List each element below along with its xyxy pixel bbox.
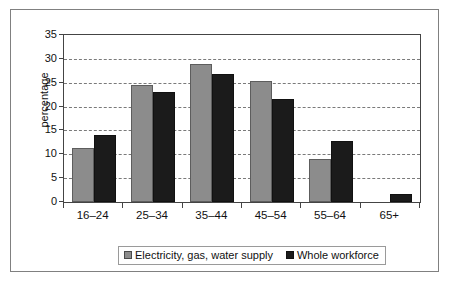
x-axis-tick-label: 55–64	[314, 209, 346, 221]
legend-label: Whole workforce	[297, 249, 379, 261]
bar	[331, 141, 353, 202]
y-axis-tick-label: 5	[11, 171, 57, 183]
bar-series-container	[64, 35, 420, 202]
plot-area	[63, 34, 421, 203]
y-axis-tick-label: 15	[11, 123, 57, 135]
bar	[153, 92, 175, 202]
bar	[131, 85, 153, 202]
y-axis-tick-mark	[59, 106, 63, 107]
y-axis-tick-mark	[59, 82, 63, 83]
y-axis-tick-label: 35	[11, 28, 57, 40]
legend-item: Electricity, gas, water supply	[124, 249, 273, 261]
bar	[94, 135, 116, 202]
y-axis-tick-label: 25	[11, 76, 57, 88]
x-axis-tick-label: 16–24	[77, 209, 109, 221]
bar	[72, 148, 94, 202]
y-axis-tick-mark	[59, 34, 63, 35]
x-axis-tick-mark	[182, 203, 183, 208]
bar-group	[183, 35, 242, 202]
chart-figure: percentage 05101520253035 16–2425–3435–4…	[10, 9, 439, 272]
bar	[390, 194, 412, 202]
grey-square-swatch	[124, 251, 132, 259]
chart-legend: Electricity, gas, water supplyWhole work…	[118, 246, 386, 265]
bar	[190, 64, 212, 202]
y-axis-tick-mark	[59, 58, 63, 59]
legend-label: Electricity, gas, water supply	[135, 249, 273, 261]
bar-group	[301, 35, 360, 202]
x-axis-tick-mark	[122, 203, 123, 208]
x-axis-tick-mark	[419, 203, 420, 208]
x-axis-tick-label: 65+	[380, 209, 400, 221]
bar	[309, 159, 331, 202]
bar	[212, 74, 234, 202]
y-axis-tick-mark	[59, 129, 63, 130]
x-axis-tick-mark	[300, 203, 301, 208]
x-axis-tick-label: 35–44	[195, 209, 227, 221]
black-square-swatch	[286, 251, 294, 259]
y-axis-tick-label: 0	[11, 195, 57, 207]
bar-group	[64, 35, 123, 202]
bar-group	[123, 35, 182, 202]
y-axis-tick-label: 30	[11, 52, 57, 64]
x-axis-tick-label: 25–34	[136, 209, 168, 221]
bar-group	[361, 35, 420, 202]
x-axis: 16–2425–3435–4445–5455–6465+	[63, 203, 421, 229]
x-axis-tick-mark	[63, 203, 64, 208]
bar-group	[242, 35, 301, 202]
y-axis-tick-mark	[59, 201, 63, 202]
y-axis-tick-label: 10	[11, 147, 57, 159]
bar	[250, 81, 272, 202]
y-axis-tick-mark	[59, 177, 63, 178]
x-axis-tick-label: 45–54	[255, 209, 287, 221]
x-axis-tick-mark	[241, 203, 242, 208]
x-axis-tick-mark	[360, 203, 361, 208]
bar	[272, 99, 294, 202]
legend-item: Whole workforce	[286, 249, 379, 261]
y-axis-tick-label: 20	[11, 100, 57, 112]
y-axis-tick-mark	[59, 153, 63, 154]
